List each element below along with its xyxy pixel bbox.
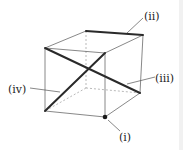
label-iv: (iv) bbox=[8, 83, 26, 96]
diagonal-iii bbox=[45, 48, 140, 93]
vertex-i-dot bbox=[103, 115, 108, 120]
edge-back-right-vertical bbox=[140, 35, 143, 93]
edge-top-right bbox=[105, 35, 143, 53]
leader-i bbox=[108, 120, 120, 131]
label-i: (i) bbox=[119, 131, 131, 144]
page-edge-strip bbox=[179, 0, 183, 150]
edge-bottom-front bbox=[45, 111, 105, 117]
label-ii: (ii) bbox=[144, 10, 160, 23]
edge-bottom-right bbox=[105, 93, 140, 117]
label-iii: (iii) bbox=[155, 72, 174, 85]
cube-diagram: (ii) (iii) (iv) (i) bbox=[0, 0, 183, 150]
edge-ii-top-back bbox=[86, 31, 143, 35]
visible-edges bbox=[45, 31, 143, 117]
leader-ii bbox=[127, 18, 143, 33]
edge-top-left bbox=[45, 31, 86, 48]
